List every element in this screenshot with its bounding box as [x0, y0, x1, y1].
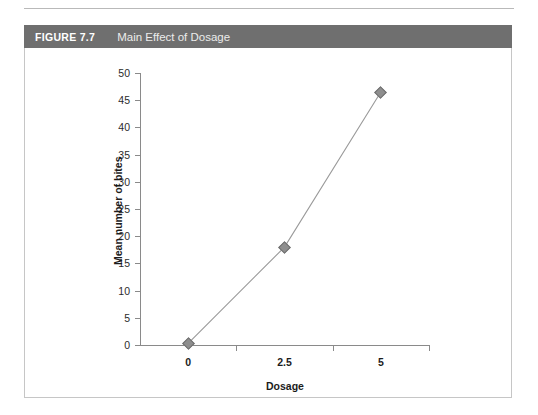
figure-header-bar: FIGURE 7.7 Main Effect of Dosage	[24, 25, 512, 48]
top-divider-rule	[24, 8, 514, 9]
figure-caption-label: Main Effect of Dosage	[117, 31, 230, 43]
figure-number-label: FIGURE 7.7	[35, 31, 95, 43]
figure-body-box	[24, 48, 512, 398]
